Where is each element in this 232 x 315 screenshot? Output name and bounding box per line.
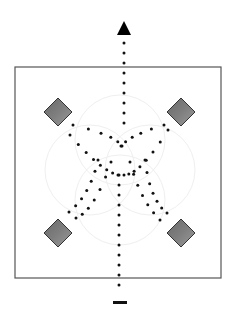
field-frame [15,67,221,278]
direction-arrow-icon [117,21,131,35]
cone-bottom-left [44,219,72,247]
cone-bottom-right [167,219,195,247]
movement-path-dots [68,42,170,287]
start-marker [113,301,127,304]
diagram-canvas [0,0,232,315]
cone-top-left [44,98,72,126]
cone-top-right [167,98,195,126]
